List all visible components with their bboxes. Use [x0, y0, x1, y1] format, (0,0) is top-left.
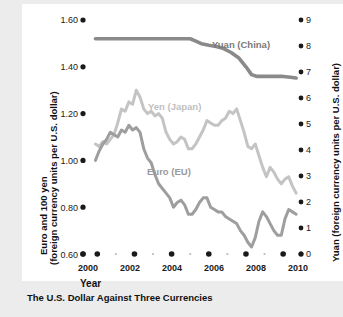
ytick-right-0: 9 — [306, 16, 311, 25]
ytick-left-0: 1.60 — [46, 16, 78, 25]
ytick-left-1: 1.40 — [46, 63, 78, 72]
ytick-right-8: 1 — [306, 224, 311, 233]
xtick-2010: 2010 — [278, 264, 318, 273]
xtick-2002: 2002 — [110, 264, 150, 273]
xtick-2000: 2000 — [68, 264, 108, 273]
figure-caption: The U.S. Dollar Against Three Currencies — [27, 292, 212, 303]
series-label-yen: Yen (Japan) — [148, 101, 201, 112]
ytick-right-7: 2 — [306, 198, 311, 207]
x-axis-title: Year — [80, 278, 101, 289]
ytick-right-2: 7 — [306, 68, 311, 77]
series-label-euro: Euro (EU) — [147, 166, 191, 177]
ytick-right-4: 5 — [306, 120, 311, 129]
ytick-right-9: 0 — [306, 250, 311, 259]
chart-card — [22, 4, 343, 281]
ytick-right-6: 3 — [306, 172, 311, 181]
ytick-right-3: 6 — [306, 94, 311, 103]
y-axis-right-title: Yuan (foreign currency units per U.S. do… — [330, 63, 341, 262]
xtick-2006: 2006 — [194, 264, 234, 273]
series-label-yuan: Yuan (China) — [212, 39, 270, 50]
xtick-2008: 2008 — [236, 264, 276, 273]
ytick-right-5: 4 — [306, 146, 311, 155]
y-axis-left-title-line2: (foreign currency units per U.S. dollar) — [48, 91, 59, 265]
ytick-right-1: 8 — [306, 42, 311, 51]
chart-figure: 1.60 1.40 1.20 1.00 0.80 0.60 9 8 7 6 5 … — [0, 0, 343, 317]
xtick-2004: 2004 — [152, 264, 192, 273]
page-margin-left — [0, 0, 22, 317]
